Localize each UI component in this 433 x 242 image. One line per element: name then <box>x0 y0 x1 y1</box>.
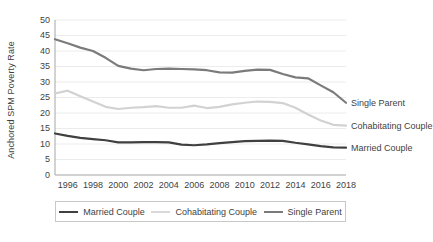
legend-item: Married Couple <box>59 207 145 217</box>
series-label-single-parent: Single Parent <box>351 98 405 108</box>
y-axis-tick-label: 30 <box>28 78 50 87</box>
y-axis-tick-label: 35 <box>28 62 50 71</box>
legend-label-married-couple: Married Couple <box>83 207 145 217</box>
legend-swatch-cohabitating-couple <box>151 211 170 213</box>
y-axis-tick-label: 20 <box>28 109 50 118</box>
x-axis-tick-label: 2018 <box>326 181 366 190</box>
legend-label-cohabitating-couple: Cohabitating Couple <box>175 207 257 217</box>
legend-swatch-single-parent <box>264 211 283 213</box>
chart-legend: Married Couple Cohabitating Couple Singl… <box>55 201 346 222</box>
y-axis-tick-label: 5 <box>28 155 50 164</box>
series-label-cohabitating-couple: Cohabitating Couple <box>351 121 433 131</box>
y-axis-tick-label: 10 <box>28 140 50 149</box>
series-label-married-couple: Married Couple <box>351 143 413 153</box>
legend-label-single-parent: Single Parent <box>288 207 342 217</box>
y-axis-tick-label: 0 <box>28 171 50 180</box>
y-axis-tick-label: 50 <box>28 16 50 25</box>
y-axis-tick-label: 25 <box>28 93 50 102</box>
y-axis-tick-label: 45 <box>28 31 50 40</box>
y-axis-tick-label: 15 <box>28 124 50 133</box>
legend-swatch-married-couple <box>59 211 78 213</box>
legend-item: Cohabitating Couple <box>151 207 257 217</box>
legend-item: Single Parent <box>264 207 342 217</box>
y-axis-tick-label: 40 <box>28 47 50 56</box>
